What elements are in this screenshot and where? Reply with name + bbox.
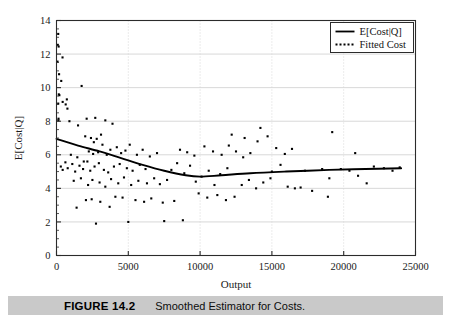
scatter-point — [68, 120, 70, 122]
scatter-point — [327, 196, 329, 198]
scatter-point — [156, 152, 158, 154]
scatter-point — [269, 177, 271, 179]
scatter-point — [109, 206, 111, 208]
scatter-point — [267, 135, 269, 137]
scatter-point — [91, 198, 93, 200]
scatter-point — [226, 167, 228, 169]
scatter-point — [104, 119, 106, 121]
scatter-point — [137, 180, 139, 182]
scatter-point — [162, 202, 164, 204]
scatter-point — [103, 169, 105, 171]
scatter-point — [100, 134, 102, 136]
scatter-point — [99, 201, 101, 203]
scatter-point — [92, 153, 94, 155]
scatter-point — [113, 165, 115, 167]
scatter-point — [159, 183, 161, 185]
legend-entry-label: Fitted Cost — [360, 39, 406, 50]
scatter-point — [132, 170, 134, 172]
axis-ticks-layer — [57, 21, 416, 256]
scatter-point — [235, 150, 237, 152]
scatter-point — [58, 73, 60, 75]
y-axis-tick-label: 0 — [45, 250, 50, 261]
plot-frame — [57, 21, 416, 256]
scatter-point — [231, 134, 233, 136]
x-axis-tick-label: 20000 — [331, 261, 357, 272]
scatter-point — [71, 163, 73, 165]
scatter-point — [61, 56, 63, 58]
scatter-point — [170, 169, 172, 171]
scatter-point — [146, 182, 148, 184]
figure-caption-label: FIGURE 14.2 — [64, 300, 135, 312]
plot-border — [57, 21, 416, 256]
scatter-point — [93, 141, 95, 143]
x-axis-tick-label: 25000 — [402, 261, 428, 272]
scatter-point — [328, 177, 330, 179]
axis-labels-layer: 024681012140500010000150002000025000Outp… — [12, 15, 429, 289]
scatter-point — [67, 167, 69, 169]
scatter-point — [116, 146, 118, 148]
scatter-point — [142, 149, 144, 151]
scatter-point — [366, 182, 368, 184]
scatter-point — [130, 184, 132, 186]
scatter-point — [76, 207, 78, 209]
scatter-point — [186, 151, 188, 153]
scatter-point — [111, 123, 113, 125]
scatter-point — [60, 80, 62, 82]
legend-box: E[Cost|Q]Fitted Cost — [331, 23, 414, 53]
scatter-point — [91, 179, 93, 181]
scatter-point — [221, 154, 223, 156]
scatter-point — [216, 194, 218, 196]
scatter-point — [244, 137, 246, 139]
scatter-point — [193, 155, 195, 157]
scatter-point — [123, 176, 125, 178]
scatter-point — [117, 182, 119, 184]
scatter-point — [90, 137, 92, 139]
scatter-point — [86, 118, 88, 120]
scatter-point — [57, 33, 59, 35]
scatter-point — [74, 171, 76, 173]
scatter-point — [287, 186, 289, 188]
y-axis-tick-label: 12 — [40, 49, 51, 60]
figure-container: 024681012140500010000150002000025000Outp… — [0, 0, 451, 319]
scatter-point — [179, 149, 181, 151]
scatter-point — [373, 165, 375, 167]
x-axis-tick-label: 0 — [54, 261, 59, 272]
scatter-point — [311, 190, 313, 192]
scatter-point — [64, 161, 66, 163]
scatter-point — [149, 155, 151, 157]
scatter-point — [189, 165, 191, 167]
scatter-point — [60, 165, 62, 167]
scatter-point — [99, 181, 101, 183]
scatter-point — [275, 147, 277, 149]
scatter-point — [62, 101, 64, 103]
scatter-point — [144, 168, 146, 170]
scatter-point — [76, 156, 78, 158]
scatter-point — [87, 184, 89, 186]
scatter-point — [300, 186, 302, 188]
scatter-point — [206, 197, 208, 199]
scatter-point — [98, 162, 100, 164]
scatter-point — [70, 154, 72, 156]
x-axis-tick-label: 5000 — [118, 261, 139, 272]
scatter-point — [104, 186, 106, 188]
scatter-point — [101, 144, 103, 146]
scatter-point — [73, 180, 75, 182]
scatter-point — [203, 145, 205, 147]
y-axis-tick-label: 10 — [40, 82, 51, 93]
figure-caption-text: Smoothed Estimator for Costs. — [155, 300, 305, 312]
scatter-point — [262, 181, 264, 183]
scatter-point — [143, 201, 145, 203]
chart-plot: 024681012140500010000150002000025000Outp… — [0, 0, 451, 296]
scatter-point — [81, 85, 83, 87]
scatter-point — [78, 165, 80, 167]
scatter-point — [213, 184, 215, 186]
scatter-point — [122, 197, 124, 199]
scatter-point — [65, 103, 67, 105]
scatter-point — [129, 144, 131, 146]
scatter-point — [163, 220, 165, 222]
scatter-point — [391, 170, 393, 172]
x-axis-title: Output — [221, 278, 252, 290]
scatter-point — [124, 150, 126, 152]
scatter-point — [109, 149, 111, 151]
figure-caption-bar: FIGURE 14.2 Smoothed Estimator for Costs… — [8, 296, 443, 315]
